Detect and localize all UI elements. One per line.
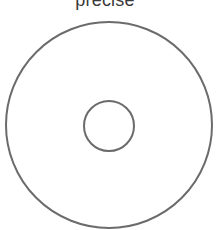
concentric-circles-figure (0, 0, 224, 230)
inner-circle (84, 101, 134, 151)
figure-canvas: precise (0, 0, 224, 230)
outer-circle (6, 22, 212, 228)
